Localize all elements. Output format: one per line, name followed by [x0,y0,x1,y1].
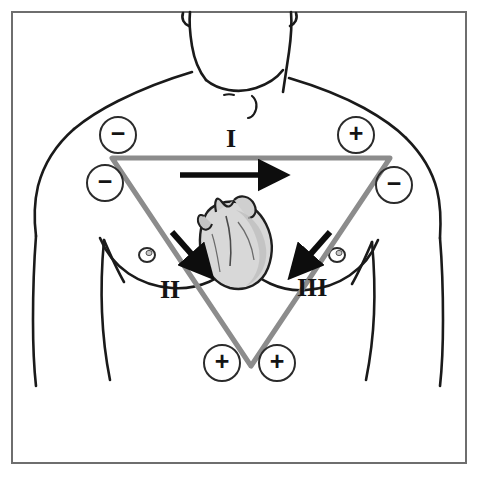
lead-2-label: II [160,277,180,303]
arm-right-outer [440,238,443,386]
electrode-polarity-label: + [270,349,285,374]
jaw-left-nub [182,13,189,26]
electrode-right-arm-lower[interactable]: − [86,164,124,202]
electrode-polarity-label: − [98,169,113,194]
throat-base-curve [206,70,283,91]
anatomy-diagram [0,0,480,477]
electrode-right-arm-upper[interactable]: − [99,116,137,154]
arm-right-inner [366,242,374,380]
electrode-polarity-label: + [215,349,230,374]
figure-canvas: I II III − − + − + + [0,0,480,477]
lead-1-label: I [226,126,236,152]
sternal-notch-tick [248,96,256,118]
clavicle-left [74,72,192,129]
electrode-polarity-label: − [387,171,402,196]
arm-left-outer [33,236,36,386]
heart-illustration [198,197,272,290]
electrode-polarity-label: + [349,121,364,146]
neck-right-contour [283,12,291,92]
arm-left-inner [102,240,110,380]
nipple-left-inner [146,250,152,255]
lead-3-label: III [297,275,327,301]
electrode-leg-right[interactable]: + [258,344,296,382]
electrode-polarity-label: − [111,121,126,146]
electrode-left-arm-upper[interactable]: + [337,116,375,154]
nipple-right-inner [336,250,342,255]
electrode-left-arm-lower[interactable]: − [375,166,413,204]
electrode-leg-left[interactable]: + [203,344,241,382]
neck-left-contour [190,12,206,80]
sternal-notch-mark [224,94,234,95]
shoulder-left-arc [35,129,74,236]
armpit-right-fold [352,242,372,284]
